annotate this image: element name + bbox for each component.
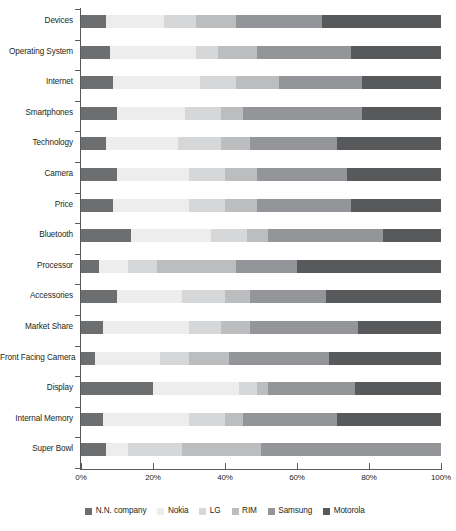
bar-segment xyxy=(103,413,189,426)
bar-segment xyxy=(200,76,236,89)
y-axis-label: Internet xyxy=(0,77,73,87)
bar-segment xyxy=(268,382,354,395)
legend-item[interactable]: LG xyxy=(199,506,220,516)
y-axis-label: Bluetooth xyxy=(0,230,73,240)
legend-label: N.N. company xyxy=(96,506,147,516)
bar-row xyxy=(81,352,441,365)
bar-segment xyxy=(221,137,250,150)
y-axis-label: Price xyxy=(0,200,73,210)
bar-segment xyxy=(185,107,221,120)
x-axis-tick xyxy=(369,463,370,470)
bar-segment xyxy=(81,46,110,59)
bar-segment xyxy=(131,229,210,242)
bar-segment xyxy=(81,76,113,89)
bar-segment xyxy=(250,137,336,150)
bar-segment xyxy=(221,107,243,120)
bar-row xyxy=(81,443,441,456)
bar-segment xyxy=(268,229,383,242)
bar-segment xyxy=(358,321,441,334)
bar-segment xyxy=(110,46,196,59)
bar-segment xyxy=(257,199,351,212)
bar-segment xyxy=(225,168,257,181)
y-axis-label: Operating System xyxy=(0,47,73,57)
bar-segment xyxy=(196,15,236,28)
bar-segment xyxy=(196,46,218,59)
legend-item[interactable]: Motorola xyxy=(323,506,365,516)
legend-swatch-icon xyxy=(85,508,92,515)
bar-segment xyxy=(221,321,250,334)
bar-segment xyxy=(106,443,128,456)
legend-swatch-icon xyxy=(157,508,164,515)
legend-label: RIM xyxy=(242,506,257,516)
chart-legend: N.N. companyNokiaLGRIMSamsungMotorola xyxy=(0,506,450,516)
bar-segment xyxy=(225,290,250,303)
bar-segment xyxy=(257,382,268,395)
bar-segment xyxy=(128,443,182,456)
bar-segment xyxy=(225,199,257,212)
bar-segment xyxy=(189,168,225,181)
x-axis-tick xyxy=(225,463,226,470)
bar-row xyxy=(81,321,441,334)
bar-row xyxy=(81,107,441,120)
bar-row xyxy=(81,137,441,150)
bar-segment xyxy=(243,413,337,426)
legend-item[interactable]: Samsung xyxy=(268,506,312,516)
bar-segment xyxy=(279,76,362,89)
bar-segment xyxy=(117,168,189,181)
bar-segment xyxy=(189,321,221,334)
legend-swatch-icon xyxy=(199,508,206,515)
bar-segment xyxy=(81,290,117,303)
bar-segment xyxy=(247,229,269,242)
bar-row xyxy=(81,229,441,242)
bar-segment xyxy=(257,46,351,59)
bar-row xyxy=(81,15,441,28)
bar-segment xyxy=(81,137,106,150)
bar-segment xyxy=(326,290,441,303)
bar-segment xyxy=(157,260,236,273)
bar-segment xyxy=(261,443,441,456)
bar-segment xyxy=(355,382,441,395)
legend-item[interactable]: N.N. company xyxy=(85,506,146,516)
bar-segment xyxy=(160,352,189,365)
bar-segment xyxy=(337,137,441,150)
bar-segment xyxy=(81,168,117,181)
y-axis-label: Devices xyxy=(0,16,73,26)
bar-segment xyxy=(189,199,225,212)
bar-segment xyxy=(117,290,182,303)
bar-segment xyxy=(178,137,221,150)
bar-segment xyxy=(81,229,131,242)
legend-label: Nokia xyxy=(168,506,188,516)
bar-segment xyxy=(337,413,441,426)
x-axis-label: 60% xyxy=(277,473,317,483)
bar-segment xyxy=(189,413,225,426)
bar-segment xyxy=(99,260,128,273)
bar-segment xyxy=(239,382,257,395)
bar-segment xyxy=(322,15,441,28)
legend-item[interactable]: Nokia xyxy=(157,506,188,516)
bar-row xyxy=(81,76,441,89)
y-axis-label: Smartphones xyxy=(0,108,73,118)
legend-label: Samsung xyxy=(278,506,312,516)
legend-swatch-icon xyxy=(268,508,275,515)
bar-segment xyxy=(113,76,199,89)
bar-segment xyxy=(189,352,229,365)
y-axis-label: Technology xyxy=(0,138,73,148)
bar-segment xyxy=(182,290,225,303)
bar-segment xyxy=(347,168,441,181)
bar-segment xyxy=(128,260,157,273)
bar-segment xyxy=(383,229,441,242)
bar-segment xyxy=(95,352,160,365)
x-axis-label: 20% xyxy=(133,473,173,483)
bar-segment xyxy=(81,199,113,212)
bar-segment xyxy=(362,76,441,89)
y-axis-label: Display xyxy=(0,383,73,393)
bar-row xyxy=(81,168,441,181)
legend-label: LG xyxy=(210,506,221,516)
bar-row xyxy=(81,199,441,212)
bar-segment xyxy=(351,199,441,212)
bar-segment xyxy=(250,290,326,303)
bar-segment xyxy=(113,199,189,212)
legend-item[interactable]: RIM xyxy=(232,506,257,516)
y-axis-label: Market Share xyxy=(0,322,73,332)
x-axis-tick xyxy=(81,463,82,470)
